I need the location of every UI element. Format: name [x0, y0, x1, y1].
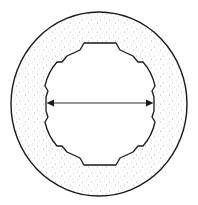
ring-cross-section: [0, 0, 198, 205]
diagram-figure: [0, 0, 198, 205]
